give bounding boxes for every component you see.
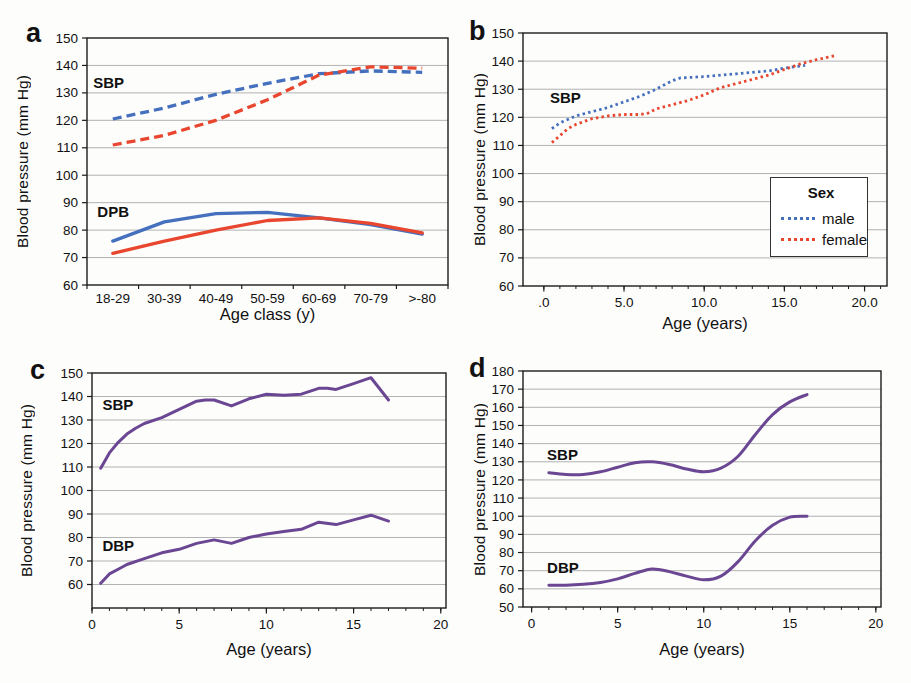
figure-blood-pressure-panels: { "colors": { "male_blue": "#4470bd", "f… [0, 0, 911, 683]
svg-text:130: 130 [55, 85, 78, 100]
svg-text:140: 140 [60, 389, 83, 404]
svg-text:SBP: SBP [547, 446, 578, 463]
svg-text:0: 0 [528, 616, 536, 631]
svg-text:SBP: SBP [550, 89, 581, 106]
svg-text:90: 90 [499, 527, 514, 542]
svg-text:80: 80 [68, 530, 83, 545]
legend-item-female: female [781, 229, 861, 250]
svg-text:120: 120 [491, 110, 514, 125]
svg-text:70: 70 [499, 563, 514, 578]
svg-text:70: 70 [63, 250, 78, 265]
svg-text:DPB: DPB [97, 203, 129, 220]
panel-a: 6070809010011012013014015018-2930-3940-4… [0, 0, 455, 341]
svg-text:110: 110 [56, 140, 78, 155]
svg-text:80: 80 [499, 545, 514, 560]
svg-text:130: 130 [491, 454, 514, 469]
svg-text:170: 170 [491, 382, 514, 397]
svg-text:180: 180 [491, 364, 514, 379]
svg-text:100: 100 [491, 509, 514, 524]
svg-text:140: 140 [491, 54, 514, 69]
svg-text:90: 90 [499, 194, 514, 209]
chart-a-age-class: 6070809010011012013014015018-2930-3940-4… [0, 0, 455, 341]
svg-text:150: 150 [60, 366, 83, 381]
chart-d-sbp-dbp: 5060708090100110120130140150160170180051… [455, 341, 911, 683]
svg-text:60: 60 [499, 279, 514, 294]
svg-text:150: 150 [55, 31, 78, 46]
svg-text:SBP: SBP [102, 396, 133, 413]
svg-text:80: 80 [63, 223, 78, 238]
svg-text:130: 130 [491, 82, 514, 97]
svg-text:5.0: 5.0 [615, 295, 634, 310]
svg-text:70: 70 [499, 250, 514, 265]
svg-text:100: 100 [491, 166, 514, 181]
svg-text:50: 50 [499, 600, 514, 615]
svg-text:110: 110 [61, 460, 83, 475]
svg-text:100: 100 [60, 483, 83, 498]
svg-text:140: 140 [491, 436, 514, 451]
legend-title: Sex [781, 184, 861, 201]
svg-text:140: 140 [55, 58, 78, 73]
panel-b: 60708090100110120130140150.05.010.015.02… [455, 0, 911, 341]
svg-text:30-39: 30-39 [147, 291, 182, 306]
legend-item-male: male [781, 208, 861, 229]
svg-text:90: 90 [63, 195, 78, 210]
svg-text:DBP: DBP [547, 559, 579, 576]
x-axis-label-d: Age (years) [523, 640, 881, 659]
svg-text:120: 120 [491, 473, 514, 488]
legend-label-female: female [822, 229, 867, 250]
svg-text:15: 15 [782, 616, 797, 631]
svg-text:20: 20 [868, 616, 883, 631]
svg-text:50-59: 50-59 [250, 291, 285, 306]
female-line-swatch [781, 238, 815, 241]
svg-text:10: 10 [696, 616, 711, 631]
svg-text:5: 5 [175, 617, 183, 632]
y-axis-label-a: Blood pressure (mm Hg) [14, 38, 32, 285]
svg-text:10: 10 [259, 617, 274, 632]
svg-text:70: 70 [68, 554, 83, 569]
svg-text:60: 60 [68, 577, 83, 592]
svg-text:130: 130 [60, 413, 83, 428]
svg-text:160: 160 [491, 400, 514, 415]
male-line-swatch [781, 217, 815, 220]
x-axis-label-c: Age (years) [92, 640, 446, 659]
legend-sex: Sex male female [770, 177, 868, 257]
svg-text:5: 5 [614, 616, 622, 631]
svg-text:18-29: 18-29 [96, 291, 131, 306]
y-axis-label-d: Blood pressure (mm Hg) [471, 371, 489, 607]
legend-label-male: male [822, 208, 855, 229]
y-axis-label-b: Blood pressure (mm Hg) [471, 33, 489, 286]
svg-text:SBP: SBP [93, 74, 124, 91]
svg-text:150: 150 [491, 26, 514, 41]
svg-text:100: 100 [55, 168, 78, 183]
svg-text:150: 150 [491, 418, 514, 433]
svg-text:60-69: 60-69 [302, 291, 337, 306]
svg-text:80: 80 [499, 222, 514, 237]
svg-text:10.0: 10.0 [691, 295, 717, 310]
svg-text:15.0: 15.0 [771, 295, 797, 310]
svg-text:.0: .0 [538, 295, 549, 310]
x-axis-label-a: Age class (y) [87, 305, 448, 324]
svg-text:70-79: 70-79 [353, 291, 388, 306]
svg-text:110: 110 [492, 138, 514, 153]
x-axis-label-b: Age (years) [523, 314, 887, 333]
panel-c: 6070809010011012013014015005101520SBPDBP… [0, 341, 455, 683]
svg-text:120: 120 [55, 113, 78, 128]
svg-text:20.0: 20.0 [851, 295, 877, 310]
svg-text:90: 90 [68, 507, 83, 522]
svg-text:40-49: 40-49 [199, 291, 234, 306]
svg-text:15: 15 [346, 617, 361, 632]
svg-text:DBP: DBP [102, 537, 134, 554]
panel-d: 5060708090100110120130140150160170180051… [455, 341, 911, 683]
svg-text:>-80: >-80 [409, 291, 436, 306]
chart-c-sbp-dbp: 6070809010011012013014015005101520SBPDBP [0, 341, 455, 683]
svg-text:0: 0 [88, 617, 96, 632]
chart-b-sbp-by-sex: 60708090100110120130140150.05.010.015.02… [455, 0, 911, 341]
y-axis-label-c: Blood pressure (mm Hg) [18, 373, 36, 608]
svg-text:110: 110 [492, 491, 514, 506]
svg-text:60: 60 [63, 278, 78, 293]
svg-text:20: 20 [433, 617, 448, 632]
svg-text:60: 60 [499, 581, 514, 596]
svg-text:120: 120 [60, 436, 83, 451]
